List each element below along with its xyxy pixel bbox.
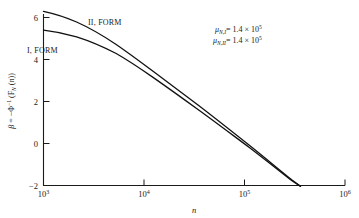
x-tick-label-1e3: 103	[38, 189, 50, 200]
axis-lines	[44, 14, 346, 186]
svg-text:103: 103	[38, 189, 50, 200]
annot-1-sup: 5	[259, 24, 262, 30]
y-tick-label-6: 6	[34, 13, 38, 23]
x-tick-base-1e4: 10	[138, 189, 147, 199]
annot-2-rest: = 1.4 × 10	[226, 36, 259, 45]
y-tick-label-0: 0	[34, 139, 38, 149]
x-tick-marks	[44, 180, 346, 186]
svg-text:104: 104	[138, 189, 150, 200]
y-axis-close: ))	[7, 73, 16, 79]
svg-text:β = −Φ−1 (FN (n)): β = −Φ−1 (FN (n))	[6, 73, 17, 130]
x-axis-title: n	[192, 205, 196, 215]
x-tick-exp-1e6: 6	[348, 189, 351, 195]
x-tick-label-1e5: 105	[239, 189, 251, 200]
y-tick-marks	[44, 18, 50, 186]
y-tick-label-minus2: −2	[29, 181, 38, 191]
x-tick-base-1e6: 10	[339, 189, 348, 199]
curve-label-ii-form: II, FORM	[88, 18, 122, 27]
chart-svg: 6 4 2 0 −2 103 104 105	[0, 0, 359, 218]
x-tick-base-1e3: 10	[38, 189, 47, 199]
chart-figure: 6 4 2 0 −2 103 104 105	[0, 0, 359, 218]
annot-1-rest: = 1.4 × 10	[226, 25, 259, 34]
curve-series-i-form	[44, 30, 301, 186]
curve-series-ii-form	[44, 11, 301, 186]
x-tick-exp-1e5: 5	[247, 189, 250, 195]
svg-text:105: 105	[239, 189, 251, 200]
annotation-line-1: μN,I= 1.4 × 105	[214, 24, 262, 35]
annotation-line-2: μN,II= 1.4 × 105	[212, 35, 262, 46]
y-axis-equals: = −Φ	[7, 106, 16, 125]
y-tick-label-2: 2	[34, 97, 38, 107]
y-axis-title: β = −Φ−1 (FN (n))	[6, 73, 17, 130]
x-tick-exp-1e3: 3	[46, 189, 49, 195]
x-tick-base-1e5: 10	[239, 189, 248, 199]
svg-text:106: 106	[339, 189, 351, 200]
x-tick-exp-1e4: 4	[147, 189, 150, 195]
annotation-block: μN,I= 1.4 × 105 μN,II= 1.4 × 105	[212, 24, 262, 46]
y-tick-label-4: 4	[34, 55, 39, 65]
annot-2-sup: 5	[259, 35, 262, 41]
x-tick-label-1e4: 104	[138, 189, 150, 200]
curve-label-i-form: I, FORM	[27, 46, 58, 55]
x-tick-label-1e6: 106	[339, 189, 351, 200]
